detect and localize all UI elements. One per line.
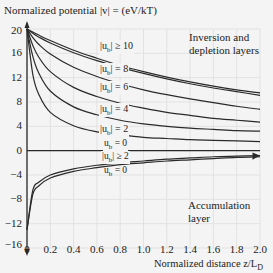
curve-label-acc-ub-0: ub = 0 [103, 165, 128, 178]
curve-label-prefix: |u [100, 103, 107, 114]
x-tick-label: 0.2 [38, 243, 62, 255]
curve-label-ub-8: |ub| = 8 [99, 63, 129, 77]
y-tick-label: −4 [0, 168, 22, 180]
arrow-right-icon [253, 152, 260, 159]
region-label-inversion-line1: Inversion and [189, 31, 259, 44]
y-tick-label: 12 [0, 71, 22, 83]
curve-label-ub-0-top: ub = 0 [103, 138, 128, 151]
curve-label-rel: | = 2 [111, 123, 129, 134]
x-tick-label: 0.8 [108, 243, 132, 255]
y-tick-label: −12 [0, 217, 22, 229]
curve-label-ub-2: |ub| = 2 [99, 123, 129, 137]
y-axis-title: Normalized potential |v| = (eV/kT) [4, 4, 157, 16]
x-tick-label: 1.0 [132, 243, 156, 255]
x-axis-title-text: Normalized distance z/L [154, 258, 257, 269]
curve-label-rel: = 0 [112, 165, 127, 175]
region-label-accumulation-line1: Accumulation [188, 199, 250, 212]
y-tick-label: 20 [0, 24, 22, 36]
region-label-accumulation: Accumulation layer [188, 199, 250, 225]
curve-label-prefix: |u [100, 63, 107, 74]
curve-label-prefix: |u [102, 151, 109, 161]
y-tick-label: 16 [0, 46, 22, 58]
curve-label-ub-ge-10: |ub| ≥ 10 [99, 40, 134, 54]
curve-label-prefix: |u [100, 123, 107, 134]
curve-label-rel: | ≥ 2 [112, 151, 129, 161]
y-tick-label: 0 [0, 144, 22, 156]
curve-label-rel: | ≥ 10 [111, 40, 134, 51]
y-tick-label: 4 [0, 119, 22, 131]
curve-label-ub-4: |ub| = 4 [99, 103, 129, 117]
region-label-accumulation-line2: layer [188, 212, 250, 225]
x-tick-label: 1.6 [201, 243, 225, 255]
curve-label-rel: | = 6 [111, 81, 129, 92]
y-axis-title-text: Normalized potential |v| = (eV/kT) [4, 4, 157, 16]
curve-label-acc-ub-ge-2: |ub| ≥ 2 [101, 151, 130, 164]
curve-label-rel: | = 4 [111, 103, 129, 114]
x-tick-label: 0.6 [85, 243, 109, 255]
x-tick-label: 1.8 [225, 243, 249, 255]
curve-label-ub-6: |ub| = 6 [99, 81, 129, 95]
region-label-inversion-line2: depletion layers [189, 44, 259, 57]
x-tick-label: 0 [15, 243, 39, 255]
x-tick-label: 1.2 [155, 243, 179, 255]
x-tick-label: 2.0 [248, 243, 272, 255]
y-tick-label: 8 [0, 95, 22, 107]
curve-label-prefix: |u [100, 40, 107, 51]
arrow-up-icon [25, 21, 30, 28]
x-axis-title-sub: D [257, 263, 263, 272]
x-tick-label: 1.4 [178, 243, 202, 255]
y-tick-label: −8 [0, 192, 22, 204]
curve-label-prefix: |u [100, 81, 107, 92]
curve-label-rel: = 0 [112, 138, 127, 148]
curve-label-rel: | = 8 [111, 63, 129, 74]
x-axis-title: Normalized distance z/LD [154, 258, 263, 272]
region-label-inversion: Inversion and depletion layers [189, 31, 259, 57]
x-tick-label: 0.4 [62, 243, 86, 255]
